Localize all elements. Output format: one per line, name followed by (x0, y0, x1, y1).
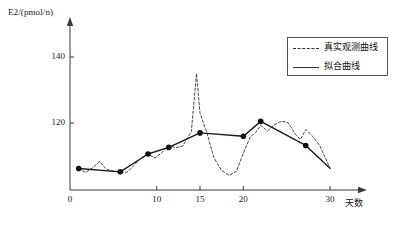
data-point-marker (166, 145, 172, 151)
y-tick-label-140: 140 (40, 51, 65, 61)
chart-plot-area (0, 0, 398, 227)
x-tick-label-15: 15 (188, 194, 212, 204)
legend-entry-fitted: 拟合曲线 (288, 57, 387, 76)
data-point-marker (117, 169, 123, 175)
y-axis-label: E2/(pmol/n) (8, 7, 53, 17)
chart-figure: E2/(pmol/n) 天数 010152030120140 真实观测曲线 拟合… (0, 0, 398, 227)
data-point-marker (258, 119, 264, 125)
legend-label-fitted: 拟合曲线 (324, 62, 360, 71)
chart-legend: 真实观测曲线 拟合曲线 (287, 37, 388, 76)
data-point-marker (145, 151, 151, 157)
x-tick-label-20: 20 (231, 194, 255, 204)
data-point-marker (241, 133, 247, 139)
chart-data-markers (76, 119, 309, 175)
x-tick-label-10: 10 (145, 194, 169, 204)
series-line-fitted (79, 121, 330, 171)
legend-dashed-line-icon (293, 43, 319, 53)
x-tick-label-30: 30 (318, 194, 342, 204)
chart-series-lines (79, 74, 330, 176)
legend-solid-line-icon (293, 62, 319, 72)
series-line-observed (79, 74, 330, 176)
legend-entry-observed: 真实观测曲线 (288, 38, 387, 57)
y-tick-label-120: 120 (40, 117, 65, 127)
x-axis-label: 天数 (345, 196, 363, 209)
x-tick-label-0: 0 (58, 194, 82, 204)
data-point-marker (76, 166, 82, 172)
data-point-marker (303, 143, 309, 149)
data-point-marker (197, 130, 203, 136)
legend-label-observed: 真实观测曲线 (324, 43, 378, 52)
